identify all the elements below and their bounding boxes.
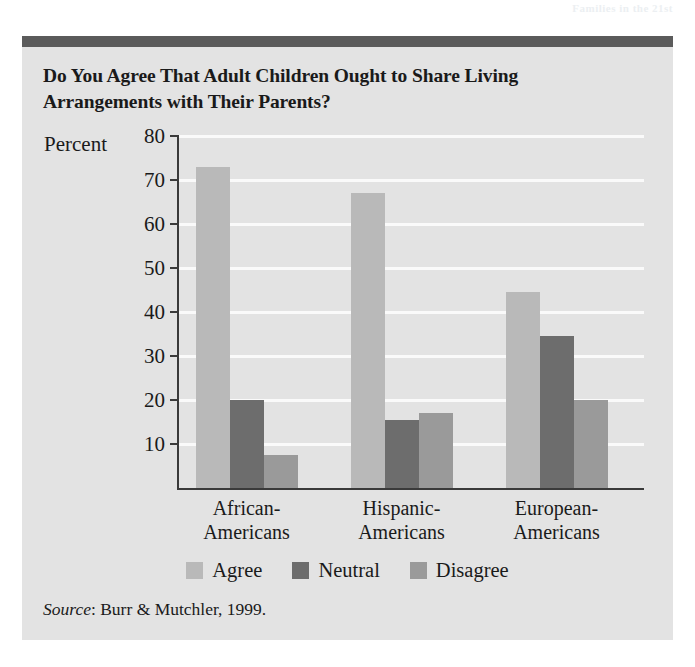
chart: Percent 1020304050607080African-American… [22,126,673,556]
y-axis-tick [170,399,179,401]
bar-agree-hispanic-americans [351,193,385,488]
legend-swatch-icon [186,562,203,579]
gridline [179,267,644,270]
bar-neutral-european-americans [540,336,574,488]
x-axis-label-line: Hispanic- [358,497,445,521]
x-axis-category-label: European-Americans [513,497,600,544]
y-axis-title: Percent [44,132,107,157]
y-axis-tick-label: 70 [144,168,165,193]
page-bleed-text: Families in the 21st [572,2,673,14]
y-axis-tick-label: 60 [144,212,165,237]
figure-container: Do You Agree That Adult Children Ought t… [22,36,673,640]
figure-title: Do You Agree That Adult Children Ought t… [43,63,633,114]
x-axis-category-label: Hispanic-Americans [358,497,445,544]
legend-item-disagree: Disagree [410,559,509,582]
x-axis-label-line: Americans [203,521,290,545]
y-axis-tick [170,311,179,313]
bar-neutral-african-americans [230,400,264,488]
y-axis-tick-label: 30 [144,344,165,369]
y-axis-tick [170,179,179,181]
gridline [179,223,644,226]
plot-area: 1020304050607080African-AmericansHispani… [177,136,644,490]
bar-disagree-european-americans [574,400,608,488]
x-axis-label-line: African- [203,497,290,521]
y-axis-tick-label: 50 [144,256,165,281]
gridline [179,355,644,358]
y-axis-tick-label: 80 [144,124,165,149]
x-axis-label-line: European- [513,497,600,521]
y-axis-tick [170,223,179,225]
bar-neutral-hispanic-americans [385,420,419,488]
legend-label: Agree [212,559,262,582]
y-axis-tick [170,267,179,269]
y-axis-tick [170,443,179,445]
bar-disagree-hispanic-americans [419,413,453,488]
figure-header-rule [22,36,673,47]
y-axis-tick [170,135,179,137]
source-citation: : Burr & Mutchler, 1999. [91,599,266,619]
legend-swatch-icon [292,562,309,579]
legend-swatch-icon [410,562,427,579]
y-axis-tick-label: 40 [144,300,165,325]
bar-disagree-african-americans [264,455,298,488]
gridline [179,311,644,314]
legend-item-neutral: Neutral [292,559,379,582]
gridline [179,135,644,138]
x-axis-label-line: Americans [358,521,445,545]
legend-label: Disagree [436,559,509,582]
legend-item-agree: Agree [186,559,262,582]
gridline [179,179,644,182]
bar-agree-european-americans [506,292,540,488]
x-axis-label-line: Americans [513,521,600,545]
source-label: Source [43,599,91,619]
y-axis-tick-label: 20 [144,388,165,413]
legend-label: Neutral [318,559,379,582]
y-axis-tick [170,355,179,357]
y-axis-tick-label: 10 [144,432,165,457]
bar-agree-african-americans [196,167,230,488]
chart-legend: AgreeNeutralDisagree [22,559,673,582]
source-note: Source: Burr & Mutchler, 1999. [43,599,266,620]
x-axis-category-label: African-Americans [203,497,290,544]
